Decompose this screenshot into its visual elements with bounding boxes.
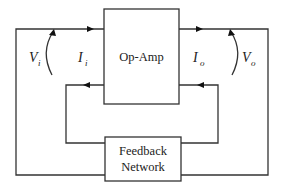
feedback-label-line1: Feedback [119,144,168,158]
input-voltage-arrowhead-icon [49,29,56,36]
feedback-input-arrow-icon [83,82,90,88]
diagram-canvas: Op-Amp Feedback Network V i I i I o V o [0,0,281,188]
feedback-output-wire [179,85,218,143]
input-voltage-subscript: i [38,58,41,68]
feedback-input-wire [66,85,105,143]
input-current-subscript: i [85,58,88,68]
input-current-arrow-icon [87,26,94,32]
output-current-symbol: I [192,50,199,65]
output-current-arrow-icon [196,26,203,32]
opamp-label: Op-Amp [119,50,163,64]
feedback-label-line2: Network [121,160,165,174]
input-current-symbol: I [77,50,84,65]
output-voltage-arc [231,32,238,75]
output-voltage-arrowhead-icon [228,29,235,36]
feedback-output-arrow-icon [197,82,204,88]
input-voltage-arc [46,32,53,75]
output-current-subscript: o [200,58,205,68]
output-voltage-subscript: o [251,58,256,68]
